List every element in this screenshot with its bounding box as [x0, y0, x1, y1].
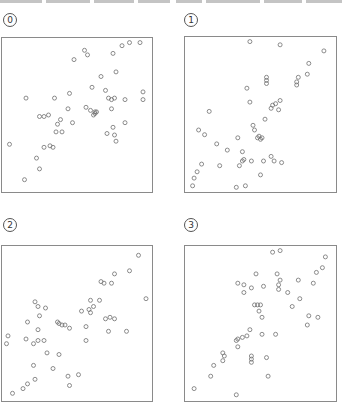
data-point: [236, 136, 240, 140]
data-point: [234, 393, 238, 397]
data-point: [38, 115, 42, 119]
data-point: [320, 266, 324, 270]
data-point: [90, 85, 94, 89]
data-point: [60, 130, 64, 134]
data-point: [86, 53, 90, 57]
data-point: [42, 339, 46, 343]
data-point: [42, 115, 46, 119]
data-point: [5, 342, 9, 346]
data-point: [209, 374, 213, 378]
data-point: [249, 286, 253, 290]
data-point: [128, 41, 132, 45]
data-point: [248, 100, 252, 104]
data-point: [138, 41, 142, 45]
panel-label-2: 2: [3, 218, 17, 232]
data-point: [123, 121, 127, 125]
data-point: [278, 278, 282, 282]
data-point: [277, 287, 281, 291]
data-point: [243, 184, 247, 188]
data-point: [99, 75, 103, 79]
data-point: [66, 107, 70, 111]
data-point: [6, 334, 10, 338]
data-point: [36, 339, 40, 343]
data-point: [257, 309, 261, 313]
data-point: [11, 391, 15, 395]
data-point: [240, 335, 244, 339]
data-point: [263, 117, 267, 121]
data-point: [24, 96, 28, 100]
data-point: [84, 105, 88, 109]
scatter-panel-0: [1, 37, 153, 193]
data-point: [105, 132, 109, 136]
data-point: [248, 328, 252, 332]
data-point: [42, 145, 46, 149]
panel-label-1: 1: [184, 13, 198, 27]
data-point: [277, 283, 281, 287]
data-point: [120, 44, 124, 48]
data-point: [307, 61, 311, 65]
data-point: [66, 374, 70, 378]
data-point: [242, 291, 246, 295]
data-point: [128, 269, 132, 273]
data-point: [89, 108, 93, 112]
data-point: [277, 108, 281, 112]
data-point: [307, 314, 311, 318]
data-point: [84, 339, 88, 343]
data-point: [272, 159, 276, 163]
data-point: [278, 43, 282, 47]
data-point: [59, 118, 63, 122]
data-point: [53, 96, 57, 100]
data-point: [278, 249, 282, 253]
scatter-plot-2: [2, 246, 152, 401]
data-point: [113, 272, 117, 276]
data-point: [236, 345, 240, 349]
data-point: [253, 128, 257, 132]
data-point: [38, 167, 42, 171]
data-point: [275, 272, 279, 276]
data-point: [63, 323, 67, 327]
data-point: [8, 142, 12, 146]
data-point: [38, 314, 42, 318]
data-point: [311, 281, 315, 285]
data-point: [248, 40, 252, 44]
data-point: [192, 176, 196, 180]
data-point: [113, 133, 117, 137]
data-point: [111, 51, 115, 55]
data-point: [36, 328, 40, 332]
data-point: [125, 329, 129, 333]
scatter-plot-1: [185, 37, 336, 192]
data-point: [305, 72, 309, 76]
data-point: [274, 332, 278, 336]
data-point: [107, 329, 111, 333]
data-point: [36, 305, 40, 309]
data-point: [83, 48, 87, 52]
data-point: [203, 133, 207, 137]
data-point: [296, 278, 300, 282]
data-point: [237, 164, 241, 168]
data-point: [251, 123, 255, 127]
data-point: [33, 377, 37, 381]
data-point: [296, 75, 300, 79]
data-point: [33, 300, 37, 304]
data-point: [98, 298, 102, 302]
data-point: [57, 353, 61, 357]
data-point: [266, 374, 270, 378]
data-point: [236, 281, 240, 285]
data-point: [26, 320, 30, 324]
data-point: [265, 356, 269, 360]
data-point: [225, 148, 229, 152]
data-point: [262, 159, 266, 163]
data-point: [23, 178, 27, 182]
data-point: [316, 315, 320, 319]
data-point: [240, 150, 244, 154]
data-point: [110, 107, 114, 111]
data-point: [269, 154, 273, 158]
data-point: [249, 159, 253, 163]
data-point: [104, 317, 108, 321]
scatter-panel-1: [184, 36, 337, 193]
data-point: [47, 113, 51, 117]
data-point: [92, 305, 96, 309]
data-point: [305, 323, 309, 327]
data-point: [245, 86, 249, 90]
data-point: [314, 270, 318, 274]
